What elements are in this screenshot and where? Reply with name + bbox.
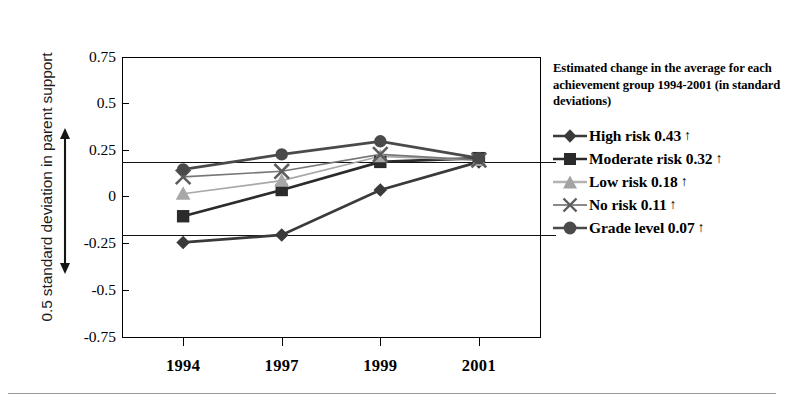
up-arrow-icon: ↑ xyxy=(684,128,691,144)
y-tick-label: -0.75 xyxy=(56,328,116,346)
diamond-marker-icon xyxy=(553,126,587,146)
up-arrow-icon: ↑ xyxy=(670,197,677,213)
y-tick-label: 0.75 xyxy=(56,48,116,66)
legend-item-moderate-risk[interactable]: Moderate risk 0.32 ↑ xyxy=(553,147,785,170)
legend-item-low-risk[interactable]: Low risk 0.18 ↑ xyxy=(553,170,785,193)
x-tick-mark xyxy=(380,338,381,346)
x-tick-label: 1994 xyxy=(143,356,223,376)
y-tick-label: -0.5 xyxy=(56,281,116,299)
reference-line-lower xyxy=(122,235,556,236)
x-tick-label: 1997 xyxy=(242,356,322,376)
up-arrow-icon: ↑ xyxy=(681,174,688,190)
y-tick-label: 0.5 xyxy=(56,94,116,112)
legend-item-no-risk[interactable]: No risk 0.11 ↑ xyxy=(553,193,785,216)
x-marker-icon xyxy=(553,195,587,215)
y-tick-label: 0.25 xyxy=(56,141,116,159)
x-tick-mark xyxy=(282,338,283,346)
reference-line-upper xyxy=(122,162,556,163)
up-arrow-icon: ↑ xyxy=(698,220,705,236)
y-tick-label: 0 xyxy=(56,187,116,205)
legend: Estimated change in the average for each… xyxy=(553,60,785,239)
circle-marker-icon xyxy=(553,218,587,238)
x-tick-label: 1999 xyxy=(340,356,420,376)
up-arrow-icon: ↑ xyxy=(715,151,722,167)
footer-rule xyxy=(8,393,776,394)
legend-caption: Estimated change in the average for each… xyxy=(553,60,785,110)
legend-label: High risk 0.43 xyxy=(589,127,681,145)
triangle-marker-icon xyxy=(553,172,587,192)
y-tick-label-group: 0.75 0.5 0.25 0 -0.25 -0.5 -0.75 xyxy=(50,0,116,409)
x-tick-mark xyxy=(183,338,184,346)
square-marker-icon xyxy=(553,149,587,169)
legend-label: Grade level 0.07 xyxy=(589,219,695,237)
legend-label: Low risk 0.18 xyxy=(589,173,678,191)
legend-item-high-risk[interactable]: High risk 0.43 ↑ xyxy=(553,124,785,147)
legend-label: No risk 0.11 xyxy=(589,196,667,214)
x-tick-label: 2001 xyxy=(439,356,519,376)
x-tick-mark xyxy=(479,338,480,346)
legend-label: Moderate risk 0.32 xyxy=(589,150,712,168)
y-tick-label: -0.25 xyxy=(56,234,116,252)
legend-item-grade-level[interactable]: Grade level 0.07 ↑ xyxy=(553,216,785,239)
plot-area xyxy=(122,57,541,338)
